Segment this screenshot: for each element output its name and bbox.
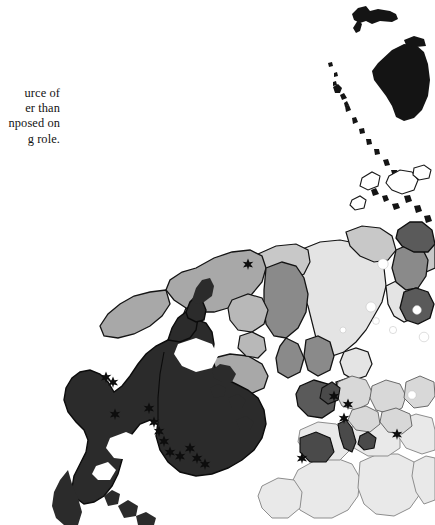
scanned-page: urce of er than nposed on g role. <box>0 0 435 525</box>
city-dot <box>373 318 380 325</box>
city-dot <box>378 259 388 269</box>
world-choropleth-map <box>0 0 435 525</box>
body-text-line: urce of <box>0 86 60 101</box>
city-dot <box>366 302 376 312</box>
body-text-line: er than <box>0 101 60 116</box>
city-dot <box>389 326 396 333</box>
city-dot <box>340 327 346 333</box>
island-speck-i <box>374 149 380 155</box>
region-southeast-mid-dark <box>304 336 334 376</box>
city-dot <box>413 306 422 315</box>
city-dot <box>419 332 429 342</box>
europe-region-a <box>336 376 372 410</box>
body-text-fragment: urce of er than nposed on g role. <box>0 86 62 147</box>
europe-region-c <box>404 376 435 408</box>
city-dot <box>408 391 416 399</box>
island-speck-h <box>366 139 372 145</box>
body-text-line: g role. <box>0 132 60 147</box>
island-speck-g <box>359 128 365 134</box>
body-text-line: nposed on <box>0 116 60 131</box>
europe-region-b <box>370 380 406 414</box>
